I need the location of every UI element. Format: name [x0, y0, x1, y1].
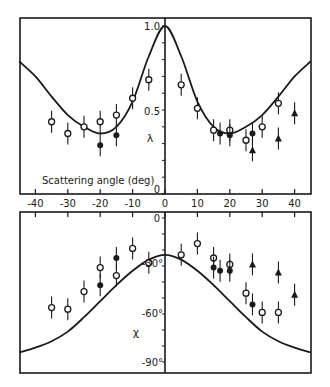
- x-tick-label: 30: [256, 198, 269, 209]
- figure: 1.0 0.5 0 λ Scattering angle (deg) -40-3…: [0, 0, 330, 387]
- open-circle-point: [65, 131, 71, 137]
- open-circle-point: [113, 112, 119, 118]
- top-ytick-05: 0.5: [144, 106, 160, 117]
- filled-triangle-point: [275, 268, 282, 275]
- top-ytick-1: 1.0: [144, 21, 160, 32]
- open-circle-point: [194, 105, 200, 111]
- filled-triangle-point: [275, 135, 282, 142]
- open-circle-point: [49, 119, 55, 125]
- filled-circle-point: [217, 268, 223, 274]
- x-tick-label: 40: [288, 198, 301, 209]
- open-circle-point: [81, 124, 87, 130]
- filled-triangle-point: [249, 260, 256, 267]
- bottom-ytick-0: 0: [154, 213, 160, 224]
- open-circle-point: [275, 309, 281, 315]
- filled-triangle-point: [249, 146, 256, 153]
- filled-circle-point: [211, 265, 217, 271]
- filled-circle-point: [227, 268, 233, 274]
- filled-triangle-point: [291, 291, 298, 298]
- filled-circle-point: [249, 301, 255, 307]
- open-circle-point: [97, 265, 103, 271]
- bottom-ytick-30: -30°: [142, 258, 163, 269]
- open-circle-point: [275, 100, 281, 106]
- open-circle-point: [259, 309, 265, 315]
- open-circle-point: [178, 252, 184, 258]
- open-circle-point: [243, 137, 249, 143]
- filled-circle-point: [113, 255, 119, 261]
- x-tick-label: 20: [223, 198, 236, 209]
- bottom-ylabel-chi: χ: [133, 326, 140, 339]
- x-tick-label: -40: [27, 198, 43, 209]
- open-circle-point: [49, 305, 55, 311]
- filled-circle-point: [113, 132, 119, 138]
- open-circle-point: [259, 124, 265, 130]
- open-circle-point: [178, 82, 184, 88]
- bottom-ytick-60: -60°: [142, 308, 163, 319]
- open-circle-point: [130, 95, 136, 101]
- top-ytick-0: 0: [154, 184, 160, 195]
- filled-triangle-point: [291, 109, 298, 116]
- open-circle-point: [146, 77, 152, 83]
- x-tick-label: 0: [162, 198, 168, 209]
- open-circle-point: [113, 273, 119, 279]
- open-circle-point: [211, 127, 217, 133]
- top-ylabel-lambda: λ: [147, 132, 154, 145]
- open-circle-point: [130, 245, 136, 251]
- x-tick-label: 10: [191, 198, 204, 209]
- top-xlabel: Scattering angle (deg): [42, 175, 154, 186]
- filled-circle-point: [249, 131, 255, 137]
- data-points: [49, 69, 299, 324]
- x-tick-label: -30: [60, 198, 76, 209]
- filled-circle-point: [227, 132, 233, 138]
- filled-circle-point: [97, 142, 103, 148]
- x-tick-label: -20: [92, 198, 108, 209]
- x-tick-label: -10: [124, 198, 140, 209]
- filled-circle-point: [217, 131, 223, 137]
- open-circle-point: [243, 290, 249, 296]
- bottom-ytick-90: -90°: [142, 357, 163, 368]
- open-circle-point: [194, 241, 200, 247]
- filled-circle-point: [97, 282, 103, 288]
- open-circle-point: [97, 119, 103, 125]
- open-circle-point: [81, 289, 87, 295]
- open-circle-point: [65, 306, 71, 312]
- x-tick-labels: -40-30-20-10010203040: [27, 198, 301, 209]
